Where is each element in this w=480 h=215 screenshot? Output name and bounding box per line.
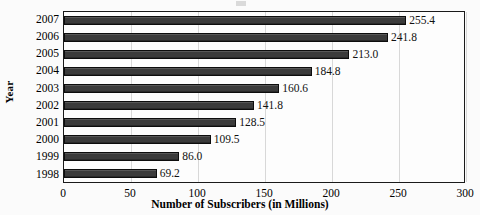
bar-value-label: 109.5 [214,134,240,146]
bar [64,118,236,127]
y-axis-title-label: Year [3,81,15,104]
plot-area: 255.4241.8213.0184.8160.6141.8128.5109.5… [63,11,465,183]
y-tick-label: 2007 [18,11,62,28]
bar-chart: Year 20072006200520042003200220012000199… [0,0,480,215]
bar [64,135,211,144]
y-tick-label: 2003 [18,80,62,97]
y-tick-label: 2002 [18,97,62,114]
gridline [466,12,467,182]
bar-row: 109.5 [64,131,464,148]
y-tick-label: 1998 [18,166,62,183]
bar-row: 255.4 [64,12,464,29]
bar-value-label: 86.0 [182,151,202,163]
bar-value-label: 255.4 [409,15,435,27]
bar [64,50,349,59]
bar-value-label: 241.8 [391,32,417,44]
bar [64,152,179,161]
y-tick-label: 2006 [18,28,62,45]
y-tick-label: 2005 [18,45,62,62]
bar-value-label: 69.2 [160,168,180,180]
bar-row: 241.8 [64,29,464,46]
bar-value-label: 141.8 [257,100,283,112]
bar-row: 184.8 [64,63,464,80]
bar [64,67,312,76]
bar [64,169,157,178]
cropped-title-artifact [236,1,246,6]
bar-value-label: 184.8 [315,66,341,78]
y-tick-label: 2001 [18,114,62,131]
bar-row: 141.8 [64,97,464,114]
bar [64,16,406,25]
bar-value-label: 160.6 [282,83,308,95]
x-axis-title: Number of Subscribers (in Millions) [0,198,480,210]
bar-row: 160.6 [64,80,464,97]
y-tick-label: 1999 [18,149,62,166]
bar [64,33,388,42]
bar-row: 86.0 [64,148,464,165]
y-axis-tick-labels: 2007200620052004200320022001200019991998 [18,11,62,183]
bar-value-label: 128.5 [239,117,265,129]
bar [64,84,279,93]
bar-row: 69.2 [64,165,464,182]
bar-row: 213.0 [64,46,464,63]
bars-layer: 255.4241.8213.0184.8160.6141.8128.5109.5… [64,12,464,182]
bar [64,101,254,110]
bar-value-label: 213.0 [352,49,378,61]
y-tick-label: 2004 [18,63,62,80]
bar-row: 128.5 [64,114,464,131]
y-tick-label: 2000 [18,131,62,148]
y-axis-title: Year [2,62,16,122]
